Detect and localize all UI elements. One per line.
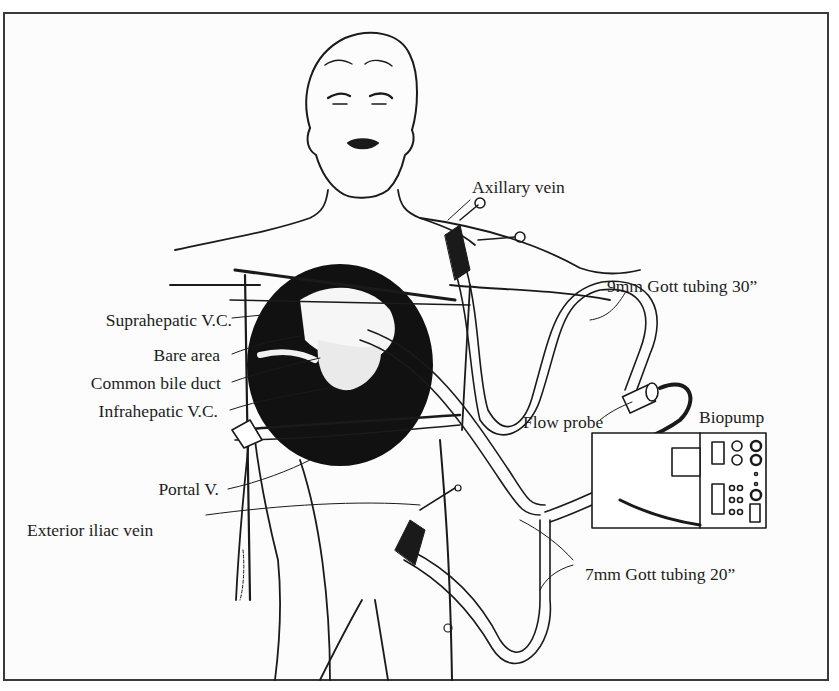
label-flow-probe: Flow probe: [523, 412, 603, 432]
label-portal-v: Portal V.: [20, 479, 219, 499]
label-biopump: Biopump: [699, 407, 764, 427]
label-infrahepatic-vc: Infrahepatic V.C.: [20, 401, 218, 421]
label-bare-area: Bare area: [20, 345, 220, 365]
label-suprahepatic-vc: Suprahepatic V.C.: [20, 310, 232, 330]
patient-head: [306, 33, 417, 198]
label-gott-tubing-9mm: 9mm Gott tubing 30”: [607, 276, 757, 296]
label-gott-tubing-7mm: 7mm Gott tubing 20”: [585, 564, 735, 584]
biopump-console: [592, 433, 766, 528]
label-common-bile-duct: Common bile duct: [20, 373, 221, 393]
artist-signature: [240, 550, 244, 600]
label-exterior-iliac-vein: Exterior iliac vein: [27, 520, 153, 540]
label-axillary-vein: Axillary vein: [472, 177, 565, 197]
